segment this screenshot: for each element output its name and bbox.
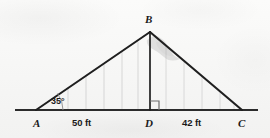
measure-label-dc: 42 ft [182, 118, 201, 128]
vertex-label-d: D [145, 118, 153, 129]
hatch-lines-right [166, 46, 234, 110]
geometry-figure: A B C D 50 ft 42 ft 35° [0, 0, 270, 138]
measure-label-ad: 50 ft [72, 118, 91, 128]
triangle-diagram [0, 0, 270, 138]
hatch-lines-left [68, 42, 138, 110]
angle-label-a: 35° [51, 97, 65, 106]
vertex-label-b: B [145, 14, 152, 25]
scan-smudge [147, 35, 180, 61]
right-angle-marker [150, 101, 159, 110]
side-BC [150, 32, 242, 110]
vertex-label-c: C [238, 118, 245, 129]
vertex-label-a: A [33, 118, 40, 129]
